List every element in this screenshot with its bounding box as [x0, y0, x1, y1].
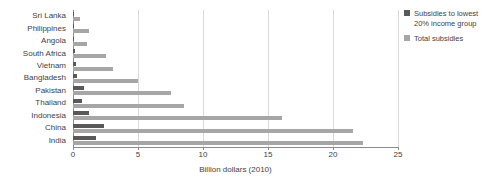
bar-total-subsidies [73, 91, 171, 95]
bar-total-subsidies [73, 116, 282, 120]
y-axis-label: Indonesia [0, 110, 71, 122]
legend-label: Total subsidies [414, 34, 463, 44]
gridline [398, 10, 399, 147]
bar-total-subsidies [73, 67, 113, 71]
bar-group [73, 60, 398, 72]
bar-group [73, 85, 398, 97]
x-tick-label: 20 [329, 151, 338, 159]
x-tick-label: 25 [394, 151, 403, 159]
x-tick-label: 10 [199, 151, 208, 159]
y-axis-label: Vietnam [0, 60, 71, 72]
bar-group [73, 47, 398, 59]
bar-subsidies-lowest-20 [73, 86, 84, 90]
bar-subsidies-lowest-20 [73, 12, 74, 16]
bar-subsidies-lowest-20 [73, 111, 89, 115]
y-axis-label: Bangladesh [0, 72, 71, 84]
legend-swatch-icon [404, 10, 410, 16]
x-axis-title: Billion dollars (2010) [73, 166, 398, 174]
legend-item: Total subsidies [404, 34, 488, 44]
x-tick-label: 5 [136, 151, 140, 159]
bar-subsidies-lowest-20 [73, 124, 104, 128]
bar-total-subsidies [73, 54, 106, 58]
y-axis-label: Thailand [0, 97, 71, 109]
bar-group [73, 97, 398, 109]
bar-subsidies-lowest-20 [73, 99, 82, 103]
bar-group [73, 122, 398, 134]
bar-total-subsidies [73, 29, 89, 33]
bar-rows [73, 10, 398, 147]
bar-subsidies-lowest-20 [73, 37, 74, 41]
y-axis-label: Angola [0, 35, 71, 47]
x-tick-label: 15 [264, 151, 273, 159]
plot-area [73, 10, 398, 147]
y-axis-label: India [0, 135, 71, 147]
bar-total-subsidies [73, 104, 184, 108]
legend-item: Subsidies to lowest 20% income group [404, 9, 488, 28]
bar-group [73, 22, 398, 34]
bar-group [73, 135, 398, 147]
y-axis-category-labels: Sri LankaPhilippinesAngolaSouth AfricaVi… [0, 10, 71, 147]
y-axis-label: China [0, 122, 71, 134]
x-tick-label: 0 [71, 151, 75, 159]
legend-swatch-icon [404, 35, 410, 41]
bar-total-subsidies [73, 141, 363, 145]
bar-chart: Sri LankaPhilippinesAngolaSouth AfricaVi… [0, 0, 488, 184]
bar-group [73, 35, 398, 47]
x-axis-ticks: 0510152025 [73, 147, 398, 163]
y-axis-label: South Africa [0, 47, 71, 59]
bar-subsidies-lowest-20 [73, 136, 96, 140]
bar-total-subsidies [73, 17, 80, 21]
bar-total-subsidies [73, 42, 87, 46]
y-axis-label: Sri Lanka [0, 10, 71, 22]
bar-subsidies-lowest-20 [73, 62, 76, 66]
bar-group [73, 72, 398, 84]
bar-subsidies-lowest-20 [73, 74, 77, 78]
bar-subsidies-lowest-20 [73, 24, 74, 28]
bar-total-subsidies [73, 79, 138, 83]
y-axis-label: Pakistan [0, 85, 71, 97]
legend-label: Subsidies to lowest 20% income group [414, 9, 488, 28]
bar-group [73, 10, 398, 22]
bar-total-subsidies [73, 129, 353, 133]
y-axis-label: Philippines [0, 22, 71, 34]
bar-group [73, 110, 398, 122]
chart-legend: Subsidies to lowest 20% income groupTota… [404, 9, 488, 50]
bar-subsidies-lowest-20 [73, 49, 75, 53]
